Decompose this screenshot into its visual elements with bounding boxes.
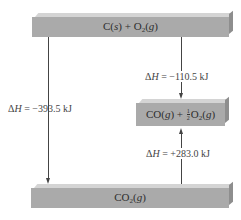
delta-h-label-step1: ΔH = −110.5 kJ <box>145 71 208 82</box>
bar-front-face: CO2(g) <box>31 188 229 208</box>
arrow-head-down-icon <box>179 93 183 99</box>
species-label-reactants: C(s) + O2(g) <box>103 20 158 34</box>
species-label-intermediate: CO(g) + 12O2(g) <box>146 108 215 122</box>
bar-side-face <box>225 97 229 123</box>
level-bar-product: CO2(g) <box>31 184 229 208</box>
arrow-line-step1 <box>181 37 182 94</box>
level-bar-intermediate: CO(g) + 12O2(g) <box>136 99 225 126</box>
bar-side-face <box>229 11 233 34</box>
arrow-head-down-icon <box>46 178 50 184</box>
delta-h-label-direct: ΔH = −393.5 kJ <box>8 103 72 114</box>
species-label-product: CO2(g) <box>114 191 146 205</box>
delta-h-label-step2: ΔH = +283.0 kJ <box>146 148 210 159</box>
bar-front-face: CO(g) + 12O2(g) <box>136 103 225 126</box>
bar-side-face <box>229 182 233 205</box>
level-bar-reactants: C(s) + O2(g) <box>32 13 229 37</box>
fraction-one-half: 12 <box>187 108 190 121</box>
arrow-head-up-icon <box>179 128 183 134</box>
bar-front-face: C(s) + O2(g) <box>32 17 229 37</box>
